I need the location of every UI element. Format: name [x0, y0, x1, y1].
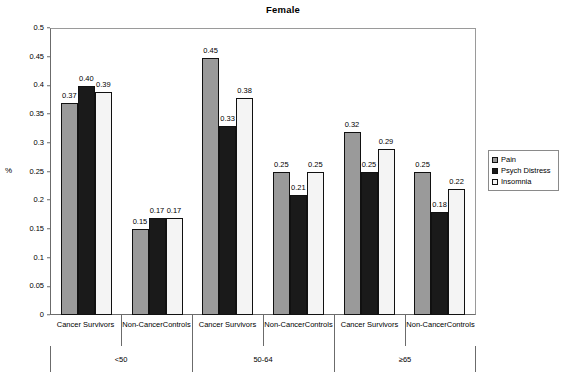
bar-value-label: 0.39 [90, 81, 117, 89]
category-label: Non-CancerControls [121, 315, 192, 346]
legend-item: Pain [492, 154, 555, 165]
y-axis-tick: 0.3 [34, 139, 50, 147]
bar [236, 98, 253, 315]
y-axis-tick: 0.05 [29, 283, 50, 291]
bar-value-label: 0.29 [373, 138, 400, 146]
category-divider [334, 315, 335, 346]
age-group-label: 50-64 [192, 346, 334, 372]
bar [307, 172, 324, 315]
legend-swatch-icon [492, 157, 498, 163]
category-axis-tier-age: <5050-64≥65 [50, 346, 476, 372]
y-axis-tick-label: 0.4 [34, 82, 47, 90]
y-axis-tick: 0.25 [29, 168, 50, 176]
bar [149, 218, 166, 315]
y-axis-tick: 0.5 [34, 24, 50, 32]
y-axis-tick: 0.45 [29, 53, 50, 61]
legend-item: Psych Distress [492, 165, 555, 176]
bar-value-label: 0.25 [409, 161, 436, 169]
y-axis-tick-label: 0.2 [34, 196, 47, 204]
bar-value-label: 0.32 [339, 121, 366, 129]
legend-label: Pain [501, 154, 516, 165]
chart-root: Female % 0.50.450.40.350.30.250.20.150.1… [0, 0, 566, 372]
y-axis-tick: 0.2 [34, 196, 50, 204]
bar-value-label: 0.17 [161, 207, 188, 215]
bar [202, 58, 219, 315]
category-label: Cancer Survivors [192, 315, 263, 346]
age-group-divider [334, 346, 335, 372]
category-divider [121, 315, 122, 346]
bar-value-label: 0.25 [268, 161, 295, 169]
legend-item: Insomnia [492, 176, 555, 187]
bar [273, 172, 290, 315]
legend-swatch-icon [492, 168, 498, 174]
y-axis-tick-label: 0.35 [29, 110, 47, 118]
age-group-divider [50, 346, 51, 372]
bars-layer: 0.370.400.390.150.170.170.450.330.380.25… [51, 29, 475, 315]
chart-title: Female [0, 4, 566, 15]
category-label: Cancer Survivors [50, 315, 121, 346]
legend-swatch-icon [492, 179, 498, 185]
y-axis-tick-label: 0.1 [34, 254, 47, 262]
bar-value-label: 0.45 [197, 47, 224, 55]
category-label: Cancer Survivors [334, 315, 405, 346]
category-axis-tier-group: Cancer SurvivorsNon-CancerControlsCancer… [50, 315, 476, 346]
y-axis-tick-label: 0.5 [34, 24, 47, 32]
y-axis-tick-label: 0.05 [29, 283, 47, 291]
y-axis-tick-label: 0 [40, 311, 47, 319]
category-divider [405, 315, 406, 346]
y-axis-tick-label: 0.25 [29, 168, 47, 176]
bar [431, 212, 448, 315]
y-axis-ticks: 0.50.450.40.350.30.250.20.150.10.050 [0, 28, 50, 315]
y-axis-tick: 0.1 [34, 254, 50, 262]
bar-value-label: 0.22 [443, 178, 470, 186]
category-divider [192, 315, 193, 346]
category-label: Non-CancerControls [263, 315, 334, 346]
legend-label: Psych Distress [501, 165, 551, 176]
y-axis-tick: 0.4 [34, 82, 50, 90]
y-axis-tick: 0 [40, 311, 50, 319]
category-label: Non-CancerControls [405, 315, 476, 346]
y-axis-tick: 0.15 [29, 225, 50, 233]
y-axis-tick-label: 0.15 [29, 225, 47, 233]
bar [61, 103, 78, 315]
bar [378, 149, 395, 315]
category-divider [263, 315, 264, 346]
age-group-label: ≥65 [334, 346, 476, 372]
category-axis: Cancer SurvivorsNon-CancerControlsCancer… [50, 315, 476, 372]
age-group-label: <50 [50, 346, 192, 372]
bar [78, 86, 95, 315]
bar [132, 229, 149, 315]
bar-value-label: 0.38 [231, 87, 258, 95]
bar [290, 195, 307, 315]
bar [361, 172, 378, 315]
bar [95, 92, 112, 315]
chart-legend: PainPsych DistressInsomnia [488, 150, 559, 191]
y-axis-tick-label: 0.3 [34, 139, 47, 147]
age-group-divider [192, 346, 193, 372]
bar [219, 126, 236, 315]
bar-value-label: 0.25 [302, 161, 329, 169]
age-group-divider [475, 346, 476, 372]
bar [344, 132, 361, 315]
y-axis-tick: 0.35 [29, 110, 50, 118]
bar [166, 218, 183, 315]
bar [414, 172, 431, 315]
y-axis-tick-label: 0.45 [29, 53, 47, 61]
legend-label: Insomnia [501, 176, 531, 187]
bar [448, 189, 465, 315]
